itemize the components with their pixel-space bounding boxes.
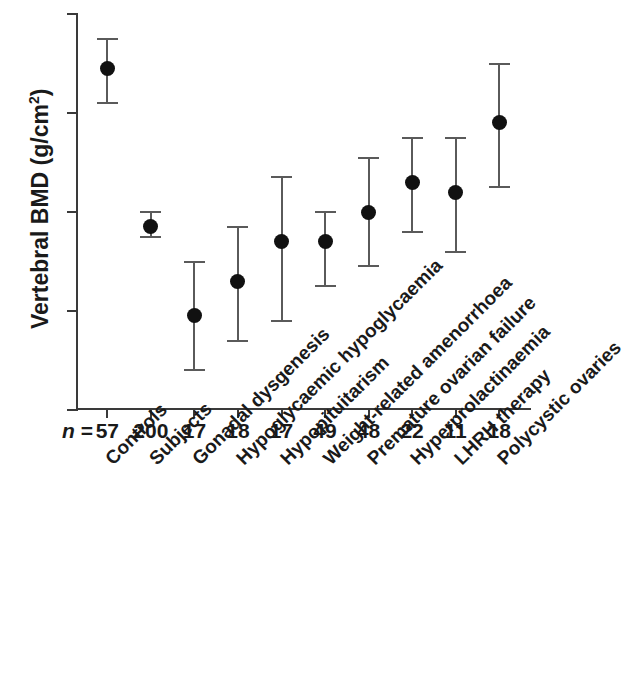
y-axis-title-superscript: 2 (26, 96, 42, 104)
y-axis-tick (67, 13, 78, 15)
error-bar-cap-upper (140, 211, 161, 213)
data-point-marker (361, 205, 376, 220)
error-bar-cap-upper (315, 211, 336, 213)
data-point-marker (492, 115, 507, 130)
error-bar-cap-upper (271, 176, 292, 178)
error-bar-cap-lower (97, 102, 118, 104)
x-axis-tick (106, 408, 108, 418)
error-bar-cap-upper (227, 226, 248, 228)
error-bar-cap-upper (358, 157, 379, 159)
error-bar-cap-upper (97, 38, 118, 40)
data-point-marker (100, 61, 115, 76)
error-bar-cap-upper (445, 137, 466, 139)
data-point-marker (448, 185, 463, 200)
error-bar-cap-lower (489, 186, 510, 188)
error-bar-cap-lower (445, 251, 466, 253)
data-point-marker (318, 234, 333, 249)
error-bar-cap-lower (402, 231, 423, 233)
y-axis-tick (67, 409, 78, 411)
data-point-marker (230, 274, 245, 289)
n-equals-label: n = (62, 419, 93, 443)
y-axis-tick (67, 310, 78, 312)
y-axis-tick (67, 112, 78, 114)
error-bar-line (281, 177, 283, 321)
category-labels-layer: ControlsSubjectsGonadal dysgenesisHypogl… (0, 448, 537, 685)
n-italic-letter: n (62, 419, 75, 442)
error-bar-cap-upper (184, 261, 205, 263)
data-point-marker (274, 234, 289, 249)
error-bar-line (324, 212, 326, 286)
error-bar-cap-upper (489, 63, 510, 65)
error-bar-cap-lower (271, 320, 292, 322)
error-bar-cap-lower (227, 340, 248, 342)
y-axis-title: Vertebral BMD (g/cm2) (26, 29, 54, 389)
y-axis-title-suffix: ) (27, 89, 53, 97)
y-axis-title-main: Vertebral BMD (g/cm (27, 104, 53, 329)
error-bar-cap-lower (315, 285, 336, 287)
error-bar-cap-lower (140, 236, 161, 238)
data-point-marker (187, 308, 202, 323)
data-point-marker (405, 175, 420, 190)
y-axis-tick (67, 211, 78, 213)
data-point-marker (143, 219, 158, 234)
error-bar-cap-upper (402, 137, 423, 139)
error-bar-cap-lower (184, 369, 205, 371)
error-bar-cap-lower (358, 265, 379, 267)
